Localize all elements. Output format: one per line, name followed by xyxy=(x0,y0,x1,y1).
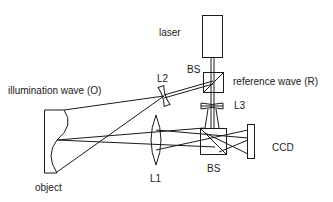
label-l2: L2 xyxy=(157,74,168,84)
holography-diagram: laser BS reference wave (R) L2 illuminat… xyxy=(0,0,333,202)
object-shape xyxy=(45,110,69,173)
label-laser: laser xyxy=(159,28,181,38)
label-object: object xyxy=(35,183,62,193)
label-illumination-wave: illumination wave (O) xyxy=(8,86,101,96)
label-bs-bottom: BS xyxy=(207,164,220,174)
label-l1: L1 xyxy=(150,174,161,184)
lens-l3 xyxy=(201,103,223,109)
label-bs-top: BS xyxy=(187,65,200,75)
label-l3: L3 xyxy=(234,101,245,111)
label-ccd: CCD xyxy=(272,143,294,153)
label-reference-wave: reference wave (R) xyxy=(233,77,318,87)
laser-box xyxy=(203,16,223,58)
ccd-sensor xyxy=(248,125,255,159)
lens-l1 xyxy=(151,115,161,165)
